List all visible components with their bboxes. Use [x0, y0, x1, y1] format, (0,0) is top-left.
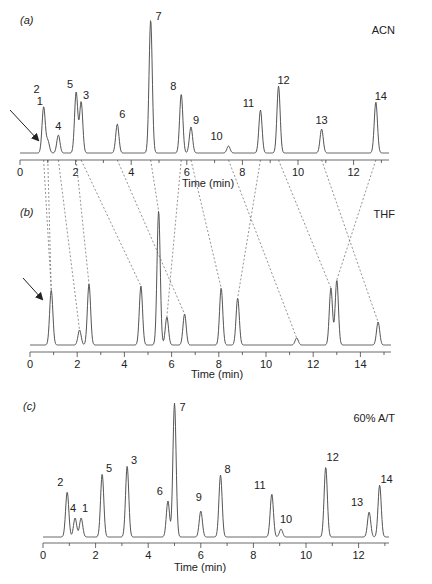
x-tick-label: 2	[74, 358, 80, 370]
peak-label: 9	[193, 114, 199, 126]
x-axis-label: Time (min)	[182, 177, 234, 189]
connection-line	[58, 160, 79, 330]
x-tick-label: 0	[40, 549, 46, 561]
x-tick-label: 10	[292, 166, 304, 178]
peak-label: 14	[375, 90, 387, 102]
connection-line	[48, 160, 51, 290]
peak-label: 11	[243, 97, 254, 109]
x-tick-label: 4	[121, 358, 127, 370]
peak-label: 2	[57, 476, 63, 488]
x-tick-label: 12	[352, 549, 364, 561]
peak-label: 1	[37, 95, 43, 107]
peak-label: 8	[224, 463, 230, 475]
peak-label: 5	[106, 462, 112, 474]
chromatogram-trace	[43, 403, 389, 537]
panel-c-60-percent-a-t: 024681012Time (min)60% A/T(c)24153679811…	[23, 400, 395, 573]
peak-label: 1	[82, 502, 88, 514]
x-tick-label: 0	[27, 358, 33, 370]
peak-label: 7	[179, 401, 185, 413]
connection-line	[76, 160, 89, 284]
x-tick-label: 10	[260, 358, 272, 370]
peak-label: 6	[157, 485, 163, 497]
x-tick-label: 2	[93, 549, 99, 561]
x-tick-label: 8	[239, 166, 245, 178]
panel-title: 60% A/T	[353, 412, 395, 424]
peak-label: 3	[83, 89, 89, 101]
panel-label: (b)	[20, 206, 34, 218]
peak-label: 13	[316, 114, 328, 126]
peak-label: 2	[34, 83, 40, 95]
connection-line	[151, 160, 159, 211]
panel-title: THF	[374, 208, 396, 220]
x-tick-label: 10	[300, 549, 312, 561]
chromatogram-figure: 024681012Time (min)ACN(a)214536789101112…	[0, 0, 432, 584]
panel-a-acn: 024681012Time (min)ACN(a)214536789101112…	[10, 10, 395, 189]
peak-label: 13	[351, 496, 363, 508]
x-axis-label: Time (min)	[174, 561, 226, 573]
x-tick-label: 12	[307, 358, 319, 370]
connection-line	[167, 160, 181, 317]
peak-label: 5	[67, 78, 73, 90]
panel-label: (a)	[20, 14, 34, 26]
x-tick-label: 2	[73, 166, 79, 178]
connection-line	[337, 160, 376, 280]
peak-label: 10	[210, 130, 222, 142]
arrow-icon	[23, 278, 42, 299]
connection-line	[238, 160, 261, 298]
peak-label: 11	[254, 479, 265, 491]
panel-label: (c)	[23, 400, 36, 412]
peak-label: 10	[280, 513, 292, 525]
x-tick-label: 8	[250, 549, 256, 561]
peak-label: 14	[381, 473, 393, 485]
peak-label: 7	[156, 10, 162, 22]
arrow-icon	[10, 110, 38, 140]
x-tick-label: 14	[354, 358, 366, 370]
x-tick-label: 0	[17, 166, 23, 178]
connection-line	[81, 160, 141, 286]
x-tick-label: 6	[198, 549, 204, 561]
panel-title: ACN	[372, 24, 395, 36]
peak-label: 9	[196, 491, 202, 503]
peak-label: 8	[170, 80, 176, 92]
peak-label: 4	[55, 120, 61, 132]
x-tick-label: 4	[128, 166, 134, 178]
x-tick-label: 12	[347, 166, 359, 178]
chromatogram-trace	[30, 211, 391, 345]
peak-label: 12	[327, 451, 339, 463]
connection-line	[279, 160, 331, 288]
peak-label: 12	[277, 74, 289, 86]
x-tick-label: 6	[169, 358, 175, 370]
peak-label: 3	[131, 454, 137, 466]
x-tick-label: 4	[145, 549, 151, 561]
connection-line	[44, 160, 52, 290]
peak-label: 4	[70, 502, 76, 514]
panel-b-thf: 02468101214Time (min)THF(b)	[20, 206, 395, 380]
x-axis-label: Time (min)	[191, 368, 243, 380]
peak-label: 6	[119, 108, 125, 120]
chromatogram-trace	[20, 21, 389, 153]
